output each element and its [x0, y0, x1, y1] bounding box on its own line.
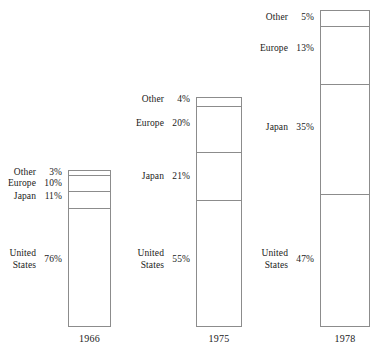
bar-segment-1966-europe[interactable] — [69, 176, 110, 192]
bar-label-1975-europe: Europe 20% — [126, 118, 190, 130]
year-caption-1975: 1975 — [196, 333, 242, 344]
year-caption-1966: 1966 — [68, 333, 111, 344]
bar-label-1966-europe-name: Europe — [8, 178, 36, 189]
bar-label-1975-japan: Japan 21% — [126, 171, 190, 183]
bar-label-1975-europe-name: Europe — [136, 118, 164, 129]
bar-label-1966-other-value: 3% — [36, 167, 62, 178]
bar-segment-1975-japan[interactable] — [197, 153, 241, 201]
bar-label-1978-japan-value: 35% — [288, 122, 314, 133]
bar-label-1975-japan-name: Japan — [142, 171, 164, 182]
bar-segment-1975-other[interactable] — [197, 98, 241, 107]
bar-label-1975-united-states-value: 55% — [164, 254, 190, 265]
bar-label-1978-united-states-name: United States — [262, 248, 288, 271]
bar-label-1966-united-states-name: United States — [10, 248, 36, 271]
bar-label-1978-other-name: Other — [266, 12, 288, 23]
bar-label-1978-united-states: United States 47% — [250, 248, 314, 272]
bar-group-1975: Other 4% Europe 20% Japan 21% United Sta… — [126, 0, 250, 352]
bar-label-1978-other: Other 5% — [250, 12, 314, 24]
bar-label-1975-japan-value: 21% — [164, 171, 190, 182]
bar-stack-1975[interactable] — [196, 97, 242, 327]
bar-group-1966: Other 3% Europe 10% Japan 11% United Sta… — [0, 0, 126, 352]
bar-label-1966-europe: Europe 10% — [0, 178, 62, 190]
bar-label-1966-japan: Japan 11% — [0, 191, 62, 203]
bar-label-1975-other: Other 4% — [126, 94, 190, 106]
bar-segment-1978-united-states[interactable] — [321, 195, 369, 326]
bar-label-1978-europe: Europe 13% — [250, 43, 314, 55]
bar-label-1978-japan-name: Japan — [266, 122, 288, 133]
bar-label-1966-europe-value: 10% — [36, 178, 62, 189]
bar-segment-1966-united-states[interactable] — [69, 209, 110, 326]
bar-label-1978-europe-value: 13% — [288, 43, 314, 54]
bar-label-1978-europe-name: Europe — [260, 43, 288, 54]
bar-label-1978-other-value: 5% — [288, 12, 314, 23]
bar-label-1966-united-states: United States 76% — [0, 248, 62, 272]
bar-label-1966-united-states-value: 76% — [36, 254, 62, 265]
bar-stack-1966[interactable] — [68, 170, 111, 327]
bar-label-1975-other-name: Other — [142, 94, 164, 105]
bar-segment-1975-europe[interactable] — [197, 107, 241, 153]
bar-label-1975-other-value: 4% — [164, 94, 190, 105]
bar-label-1978-united-states-value: 47% — [288, 254, 314, 265]
bar-label-1978-japan: Japan 35% — [250, 122, 314, 134]
bar-label-1966-japan-name: Japan — [14, 191, 36, 202]
bar-segment-1978-other[interactable] — [321, 11, 369, 27]
bar-label-1975-europe-value: 20% — [164, 118, 190, 129]
year-caption-1978: 1978 — [320, 333, 370, 344]
bar-segment-1978-japan[interactable] — [321, 85, 369, 195]
bar-label-1975-united-states: United States 55% — [126, 248, 190, 272]
bar-label-1966-japan-value: 11% — [36, 191, 62, 202]
bar-segment-1978-europe[interactable] — [321, 27, 369, 85]
stacked-bar-chart: Other 3% Europe 10% Japan 11% United Sta… — [0, 0, 378, 352]
bar-group-1978: Other 5% Europe 13% Japan 35% United Sta… — [250, 0, 378, 352]
bar-label-1975-united-states-name: United States — [138, 248, 164, 271]
bar-segment-1975-united-states[interactable] — [197, 201, 241, 326]
bar-segment-1966-japan[interactable] — [69, 192, 110, 209]
bar-stack-1978[interactable] — [320, 10, 370, 327]
bar-label-1966-other-name: Other — [14, 167, 36, 178]
